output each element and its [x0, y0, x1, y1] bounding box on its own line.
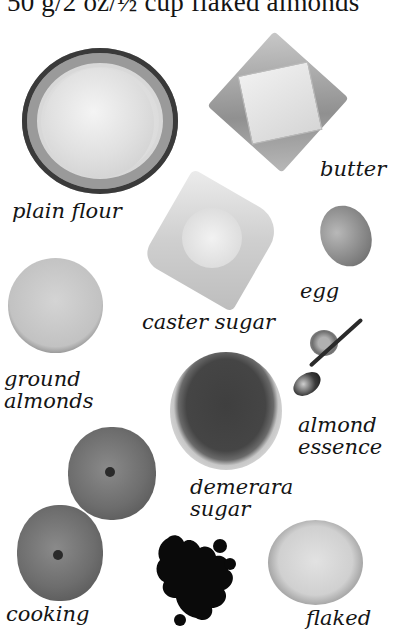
label-demerara-line2: sugar — [190, 498, 293, 520]
sugar-highlight — [182, 208, 242, 268]
raisins-image — [150, 528, 240, 626]
egg-image — [312, 198, 380, 273]
flaked-almonds-bowl-image — [268, 520, 363, 605]
label-ground-almonds: ground almonds — [4, 368, 94, 412]
label-ground-almonds-line1: ground — [4, 368, 94, 390]
caster-sugar-bag-image — [152, 178, 277, 308]
apple-image — [17, 505, 103, 601]
label-almond-essence-line2: essence — [298, 436, 382, 458]
label-cooking-apples: cooking — [6, 603, 89, 625]
label-plain-flour: plain flour — [12, 200, 122, 222]
label-caster-sugar: caster sugar — [142, 311, 275, 333]
teaspoon-image — [290, 326, 385, 406]
label-demerara-line1: demerara — [190, 476, 293, 498]
apple-core — [53, 550, 63, 560]
label-butter: butter — [320, 158, 386, 180]
label-almond-essence: almond essence — [298, 414, 382, 458]
label-almond-essence-line1: almond — [298, 414, 382, 436]
butter-image — [210, 38, 350, 163]
label-demerara-sugar: demerara sugar — [190, 476, 293, 520]
flour-heap — [44, 68, 154, 178]
apple-image — [68, 427, 156, 520]
ingredient-quantity-line: 50 g/2 oz/½ cup flaked almonds — [7, 0, 359, 18]
plain-flour-bowl-image — [22, 48, 178, 194]
label-egg: egg — [300, 280, 339, 302]
label-ground-almonds-line2: almonds — [4, 390, 94, 412]
butter-block — [238, 61, 323, 144]
ground-almonds-bowl-image — [8, 258, 103, 353]
spoon-handle — [309, 318, 364, 368]
spoon-bowl — [289, 367, 325, 401]
label-flaked-almonds: flaked — [306, 607, 371, 629]
apple-core — [105, 467, 115, 477]
demerara-sugar-ramekin-image — [170, 352, 282, 470]
